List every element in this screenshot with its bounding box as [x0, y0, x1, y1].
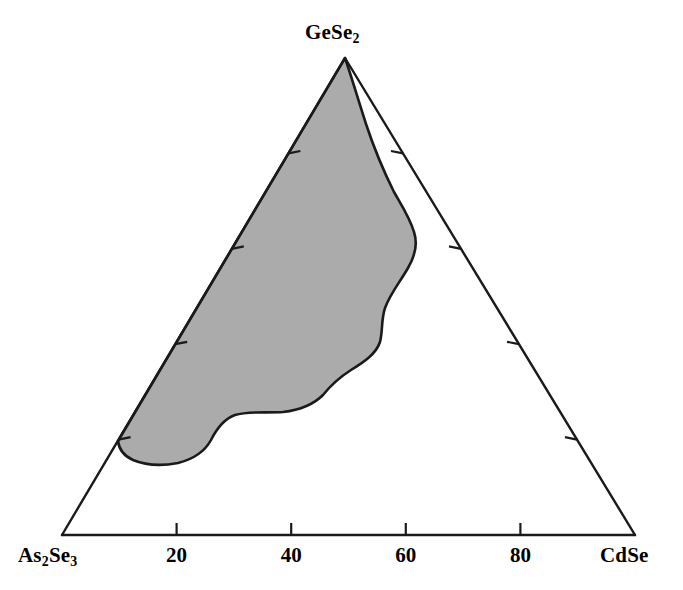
vertex-label-as2se3-sub1: 2 — [42, 554, 49, 569]
bottom-axis-label-20: 20 — [166, 543, 187, 568]
bottom-axis-ticks — [177, 523, 521, 535]
vertex-label-gese2: GeSe2 — [305, 20, 360, 47]
ternary-diagram-root: GeSe2 As2Se3 CdSe 20 40 60 80 — [0, 0, 683, 590]
bottom-axis-label-60: 60 — [395, 543, 416, 568]
ternary-diagram-svg — [0, 0, 683, 590]
glass-forming-region — [118, 58, 416, 465]
vertex-label-as2se3-as: As — [18, 543, 42, 567]
vertex-label-as2se3-se: Se — [49, 543, 70, 567]
vertex-label-cdse: CdSe — [600, 543, 649, 568]
vertex-label-gese2-text: GeSe — [305, 20, 352, 44]
bottom-axis-label-40: 40 — [281, 543, 302, 568]
vertex-label-gese2-subscript: 2 — [352, 31, 359, 46]
vertex-label-as2se3-sub2: 3 — [70, 554, 77, 569]
right-axis-ticks — [391, 151, 577, 440]
vertex-label-as2se3: As2Se3 — [18, 543, 77, 570]
bottom-axis-label-80: 80 — [510, 543, 531, 568]
